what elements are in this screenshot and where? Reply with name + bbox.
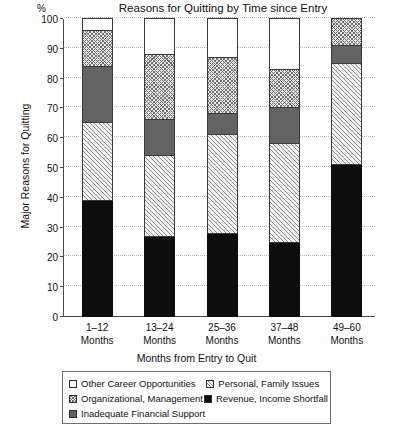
y-tick-mark	[60, 78, 63, 79]
bar-segment	[144, 155, 175, 236]
x-tick-label: 49–60Months	[312, 322, 382, 347]
legend-swatch-icon	[204, 395, 212, 403]
x-tick-range: 37–48	[249, 322, 319, 335]
bar-segment	[331, 45, 362, 64]
legend-item[interactable]: Organizational, Management	[69, 393, 204, 404]
plot-inner: 0102030405060708090100	[63, 19, 375, 317]
legend-label: Revenue, Income Shortfall	[216, 393, 328, 404]
x-tick-unit: Months	[125, 335, 195, 348]
legend-row: Other Career OpportunitiesPersonal, Fami…	[69, 376, 324, 391]
x-tick-unit: Months	[312, 335, 382, 348]
y-axis-line	[63, 19, 64, 317]
bar-segment	[144, 119, 175, 156]
x-tick-range: 13–24	[125, 322, 195, 335]
x-tick-unit: Months	[62, 335, 132, 348]
x-tick-label: 25–36Months	[187, 322, 257, 347]
x-tick-range: 49–60	[312, 322, 382, 335]
chart-title: Reasons for Quitting by Time since Entry	[58, 2, 388, 14]
bar-segment	[207, 18, 238, 58]
legend-row: Inadequate Financial Support	[69, 406, 324, 421]
y-tick-label: 0	[52, 312, 58, 323]
y-tick-mark	[60, 18, 63, 19]
legend-row: Organizational, ManagementRevenue, Incom…	[69, 391, 324, 406]
legend-label: Inadequate Financial Support	[81, 408, 205, 419]
bar-stack	[269, 19, 300, 317]
bar-segment	[269, 143, 300, 242]
y-tick-mark	[60, 227, 63, 228]
bar-segment	[207, 134, 238, 233]
x-tick-label: 13–24Months	[125, 322, 195, 347]
x-axis-title: Months from Entry to Quit	[0, 352, 393, 364]
y-tick-mark	[60, 137, 63, 138]
legend-label: Other Career Opportunities	[81, 378, 196, 389]
bar-segment	[269, 242, 300, 318]
bar-segment	[82, 200, 113, 317]
bar-stack	[331, 19, 362, 317]
y-tick-label: 50	[47, 163, 58, 174]
x-tick-unit: Months	[187, 335, 257, 348]
bar-segment	[331, 164, 362, 317]
x-tick-range: 25–36	[187, 322, 257, 335]
y-tick-mark	[60, 167, 63, 168]
y-tick-label: 90	[47, 43, 58, 54]
y-tick-label: 70	[47, 103, 58, 114]
bar-segment	[144, 54, 175, 121]
y-axis-title: Major Reasons for Quitting	[19, 86, 31, 246]
legend-swatch-icon	[69, 395, 77, 403]
y-tick-label: 30	[47, 222, 58, 233]
legend-swatch-icon	[206, 380, 214, 388]
bar-segment	[82, 122, 113, 200]
y-tick-label: 40	[47, 192, 58, 203]
y-tick-mark	[60, 48, 63, 49]
bar-segment	[269, 18, 300, 70]
y-tick-label: 10	[47, 282, 58, 293]
bar-segment	[207, 113, 238, 135]
legend-swatch-icon	[69, 380, 77, 388]
legend-label: Organizational, Management	[81, 393, 203, 404]
y-tick-label: 80	[47, 73, 58, 84]
x-tick-unit: Months	[249, 335, 319, 348]
bar-segment	[144, 236, 175, 317]
legend-label: Personal, Family Issues	[218, 378, 319, 389]
x-tick-label: 1–12Months	[62, 322, 132, 347]
bar-stack	[144, 19, 175, 317]
y-tick-mark	[60, 256, 63, 257]
legend-item[interactable]: Inadequate Financial Support	[69, 408, 209, 419]
legend-swatch-icon	[69, 410, 77, 418]
bar-segment	[144, 18, 175, 55]
y-axis-unit-label: %	[37, 3, 46, 14]
bar-segment	[331, 18, 362, 46]
bar-stack	[82, 19, 113, 317]
legend: Other Career OpportunitiesPersonal, Fami…	[62, 371, 331, 424]
y-tick-label: 100	[41, 14, 58, 25]
x-tick-label: 37–48Months	[249, 322, 319, 347]
bar-segment	[269, 107, 300, 144]
bar-segment	[207, 233, 238, 317]
bar-stack	[207, 19, 238, 317]
y-tick-label: 20	[47, 252, 58, 263]
bar-segment	[82, 18, 113, 31]
plot-area: 0102030405060708090100	[63, 19, 375, 317]
bar-segment	[269, 69, 300, 109]
legend-item[interactable]: Other Career Opportunities	[69, 378, 206, 389]
bar-segment	[82, 30, 113, 67]
bar-segment	[82, 66, 113, 124]
legend-item[interactable]: Revenue, Income Shortfall	[204, 393, 324, 404]
bar-segment	[207, 57, 238, 115]
x-tick-range: 1–12	[62, 322, 132, 335]
y-tick-mark	[60, 316, 63, 317]
legend-item[interactable]: Personal, Family Issues	[206, 378, 324, 389]
y-tick-mark	[60, 197, 63, 198]
y-tick-label: 60	[47, 133, 58, 144]
y-tick-mark	[60, 286, 63, 287]
bar-segment	[331, 63, 362, 165]
y-tick-mark	[60, 107, 63, 108]
